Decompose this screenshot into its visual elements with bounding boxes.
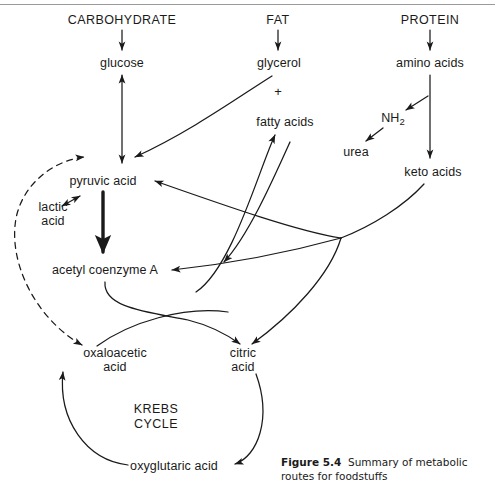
node-oxyglutaric-acid: oxyglutaric acid xyxy=(130,459,218,473)
edge-oxaloacetic-to-citric-curve xyxy=(97,311,228,346)
label-krebs-cycle: KREBS CYCLE xyxy=(134,402,179,432)
figure-caption: Figure 5.4 Summary of metabolic routes f… xyxy=(281,455,486,483)
node-amino-acids: amino acids xyxy=(396,56,464,70)
metabolic-pathway-graphic xyxy=(0,0,495,486)
edge-acetyl-coa-to-fatty-acids xyxy=(196,135,275,292)
node-citric-acid: citric acid xyxy=(230,346,256,374)
node-pyruvic-acid: pyruvic acid xyxy=(69,174,136,188)
edge-acetyl-coa-to-citric-acid xyxy=(105,282,240,344)
edge-hub-to-acetyl-coenzyme-a xyxy=(172,238,341,270)
edge-amino-acids-to-nh2 xyxy=(406,96,428,110)
edge-hub-to-citric-acid xyxy=(252,238,341,344)
node-keto-acids: keto acids xyxy=(404,165,461,179)
edge-nh2-to-urea xyxy=(366,128,383,141)
node-protein: PROTEIN xyxy=(401,13,460,27)
edge-oxyglutaric-to-oxaloacetic-arc xyxy=(62,372,128,465)
node-acetyl-coenzyme-a: acetyl coenzyme A xyxy=(52,263,158,277)
node-glycerol: glycerol xyxy=(257,56,301,70)
node-fat: FAT xyxy=(266,13,289,27)
node-plus-sign: + xyxy=(274,85,282,100)
edge-glycerol-to-glucose-junction xyxy=(135,76,272,157)
nh2-main-text: NH xyxy=(381,111,399,125)
node-fatty-acids: fatty acids xyxy=(256,115,313,129)
node-lactic-acid: lactic acid xyxy=(38,200,67,228)
nh2-subscript: 2 xyxy=(399,116,404,127)
node-carbohydrate: CARBOHYDRATE xyxy=(68,13,177,27)
edge-keto-acids-to-hub xyxy=(341,184,424,238)
node-ammonia-nh2: NH2 xyxy=(381,111,405,127)
edge-citric-to-oxyglutaric-arc xyxy=(235,374,263,464)
edge-fatty-acids-to-acetyl-coa xyxy=(224,142,290,262)
edge-hub-to-pyruvic-acid xyxy=(155,181,341,238)
figure-number: Figure 5.4 xyxy=(281,456,341,468)
figure-canvas: CARBOHYDRATE glucose FAT glycerol + fatt… xyxy=(0,0,495,486)
node-urea: urea xyxy=(343,145,368,159)
node-oxaloacetic-acid: oxaloacetic acid xyxy=(83,346,147,374)
node-glucose: glucose xyxy=(100,56,144,70)
